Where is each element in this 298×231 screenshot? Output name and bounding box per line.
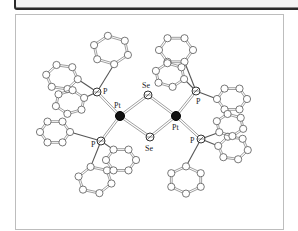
- atom-label-se: Se: [142, 81, 150, 90]
- carbon-atom: [121, 37, 128, 44]
- atom-label-pt: Pt: [114, 101, 121, 110]
- carbon-atom: [59, 139, 66, 146]
- carbon-atom: [197, 183, 204, 190]
- core-bond: [147, 96, 175, 117]
- carbon-atom: [43, 71, 50, 78]
- carbon-atom: [155, 46, 162, 53]
- atom-label-p: P: [196, 97, 201, 106]
- carbon-atom: [125, 167, 132, 174]
- phenyl-rings: [36, 32, 251, 197]
- carbon-atom: [155, 79, 162, 86]
- phenyl-ring: [168, 139, 205, 197]
- carbon-atom: [75, 173, 82, 180]
- carbon-atom: [237, 114, 244, 121]
- carbon-atom: [239, 135, 246, 142]
- carbon-atom: [44, 139, 51, 146]
- carbon-atom: [197, 170, 204, 177]
- carbon-atom: [80, 94, 87, 101]
- core-bond: [149, 94, 177, 115]
- core-bond: [175, 117, 200, 140]
- carbon-atom: [213, 95, 220, 102]
- carbon-atom: [90, 41, 97, 48]
- carbon-atom: [108, 180, 115, 187]
- carbon-atom: [221, 85, 228, 92]
- carbon-atom: [180, 76, 187, 83]
- carbon-atom: [181, 35, 188, 42]
- carbon-atom: [44, 118, 51, 125]
- phenyl-ring: [75, 141, 115, 197]
- carbon-atom: [53, 61, 60, 68]
- carbon-atom: [69, 64, 76, 71]
- atom-label-p: P: [103, 87, 108, 96]
- carbon-atom: [124, 51, 131, 58]
- carbon-atom: [55, 91, 62, 98]
- carbon-atom: [87, 163, 94, 170]
- platinum-atom: [116, 112, 125, 121]
- carbon-atom: [64, 110, 71, 117]
- carbon-atom: [164, 60, 171, 67]
- atom-label-p: P: [190, 136, 195, 145]
- carbon-atom: [215, 142, 222, 149]
- carbon-atom: [36, 128, 43, 135]
- carbon-atom: [182, 163, 189, 170]
- carbon-atom: [168, 183, 175, 190]
- carbon-atom: [125, 146, 132, 153]
- core-bond: [121, 115, 151, 136]
- carbon-atom: [52, 103, 59, 110]
- core-bond: [177, 115, 202, 138]
- core-atoms: [93, 87, 205, 145]
- carbon-atom: [74, 76, 81, 83]
- carbon-atom: [240, 125, 247, 132]
- carbon-atom: [102, 156, 109, 163]
- carbon-atom: [69, 87, 76, 94]
- carbon-atom: [168, 170, 175, 177]
- carbon-atom: [132, 156, 139, 163]
- core-bond: [119, 94, 147, 115]
- platinum-atom: [172, 112, 181, 121]
- core-bond: [121, 96, 149, 117]
- carbon-atom: [229, 132, 236, 139]
- carbon-atom: [79, 186, 86, 193]
- carbon-atom: [110, 146, 117, 153]
- carbon-atom: [66, 128, 73, 135]
- carbon-atom: [182, 190, 189, 197]
- carbon-atom: [96, 190, 103, 197]
- carbon-atom: [235, 156, 242, 163]
- carbon-atom: [78, 106, 85, 113]
- phenyl-ring: [201, 133, 251, 163]
- carbon-atom: [244, 146, 251, 153]
- carbon-atom: [236, 85, 243, 92]
- carbon-atom: [110, 167, 117, 174]
- phenyl-ring: [196, 85, 251, 113]
- phenyl-ring: [201, 110, 247, 139]
- carbon-atom: [220, 154, 227, 161]
- carbon-atom: [216, 129, 223, 136]
- atom-label-se: Se: [145, 144, 153, 153]
- phenyl-ring: [52, 87, 97, 118]
- carbon-atom: [59, 118, 66, 125]
- atom-label-p: P: [91, 140, 96, 149]
- carbon-atom: [104, 32, 111, 39]
- phenyl-ring: [90, 32, 131, 92]
- carbon-atom: [169, 83, 176, 90]
- atom-label-pt: Pt: [172, 123, 179, 132]
- carbon-atom: [243, 95, 250, 102]
- carbon-atom: [48, 83, 55, 90]
- p-c-bond: [70, 132, 101, 141]
- molecular-structure-diagram: PtPtSeSePPPP: [0, 0, 298, 231]
- carbon-atom: [164, 35, 171, 42]
- carbon-atom: [189, 46, 196, 53]
- carbon-atom: [213, 118, 220, 125]
- core-bond: [119, 117, 149, 138]
- carbon-atom: [178, 64, 185, 71]
- carbon-atom: [152, 67, 159, 74]
- carbon-atom: [224, 110, 231, 117]
- carbon-atom: [111, 61, 118, 68]
- carbon-atom: [236, 106, 243, 113]
- carbon-atom: [94, 56, 101, 63]
